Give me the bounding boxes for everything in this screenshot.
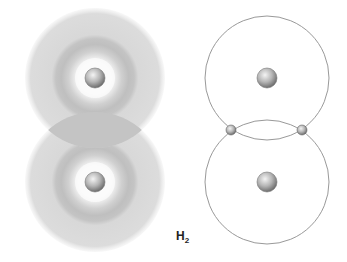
nucleus-top-icon: [257, 68, 277, 88]
nucleus-top-icon: [85, 68, 105, 88]
h2-diagram: [0, 0, 347, 262]
electron-cloud-model: [25, 8, 165, 252]
orbit-model: [205, 16, 329, 244]
nucleus-bottom-icon: [85, 172, 105, 192]
nucleus-bottom-icon: [257, 172, 277, 192]
electron-right-icon: [297, 125, 307, 135]
electron-left-icon: [226, 125, 236, 135]
molecule-label: H2: [176, 229, 189, 245]
label-main: H: [176, 229, 185, 243]
label-subscript: 2: [185, 236, 189, 245]
